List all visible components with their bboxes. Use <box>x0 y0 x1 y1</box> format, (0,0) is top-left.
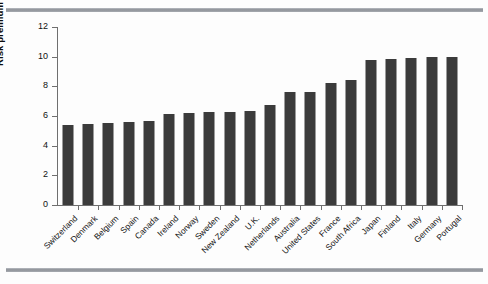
y-axis-tick-label: 10 <box>0 51 48 61</box>
bar <box>83 124 94 205</box>
bar-slot <box>139 27 159 205</box>
bar <box>446 57 457 205</box>
y-axis-tick-label: 4 <box>0 140 48 150</box>
bar-slot <box>280 27 300 205</box>
bar-slot <box>381 27 401 205</box>
bar-slot <box>98 27 118 205</box>
bar <box>123 122 134 205</box>
top-divider-rule <box>6 8 483 12</box>
bar <box>63 125 74 205</box>
bar-slot <box>240 27 260 205</box>
bar-chart: Risk premium (%) 024681012 SwitzerlandDe… <box>0 18 488 263</box>
bar <box>143 121 154 205</box>
bar <box>366 60 377 205</box>
bar-slot <box>159 27 179 205</box>
bar-slot <box>401 27 421 205</box>
bar <box>224 112 235 205</box>
bottom-divider-rule <box>6 268 483 272</box>
bar-slot <box>78 27 98 205</box>
figure-page: Risk premium (%) 024681012 SwitzerlandDe… <box>0 0 488 284</box>
bar-slot <box>300 27 320 205</box>
y-axis-tick-label: 6 <box>0 110 48 120</box>
bar <box>325 83 336 205</box>
bar <box>204 112 215 205</box>
bar <box>244 111 255 205</box>
bar <box>164 114 175 205</box>
y-axis-tick-label: 0 <box>0 199 48 209</box>
bar <box>184 113 195 205</box>
bar <box>406 58 417 205</box>
bar-slot <box>179 27 199 205</box>
y-axis-tick-label: 8 <box>0 80 48 90</box>
y-axis-tick <box>52 205 58 206</box>
bar-slot <box>58 27 78 205</box>
y-axis-tick-label: 2 <box>0 169 48 179</box>
bar-slot <box>220 27 240 205</box>
bar-slot <box>442 27 462 205</box>
bar-slot <box>199 27 219 205</box>
y-axis-tick-label: 12 <box>0 21 48 31</box>
bar <box>285 92 296 205</box>
bar-slot <box>361 27 381 205</box>
bar-slot <box>422 27 442 205</box>
bar <box>426 57 437 205</box>
bar-slot <box>321 27 341 205</box>
bar-slot <box>119 27 139 205</box>
bar-series <box>58 27 462 205</box>
